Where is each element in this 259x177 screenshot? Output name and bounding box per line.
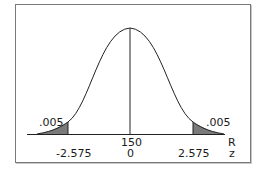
right-tail-label: .005	[206, 117, 231, 128]
left-tail-label: .005	[39, 117, 64, 128]
left-z-label: -2.575	[56, 148, 91, 159]
right-z-label: 2.575	[178, 148, 210, 159]
axis-z-label: z	[229, 148, 235, 159]
center-z-label: 0	[127, 148, 134, 159]
